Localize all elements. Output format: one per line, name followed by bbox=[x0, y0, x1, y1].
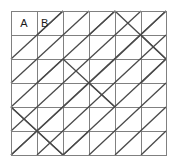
diagonal-line bbox=[63, 131, 89, 155]
cell-labels-group: AB bbox=[20, 17, 48, 29]
geometric-figure-container: AB bbox=[0, 0, 178, 166]
cell-label-b: B bbox=[41, 17, 48, 29]
grid-diagram-svg: AB bbox=[0, 0, 178, 166]
diagonal-line bbox=[141, 131, 166, 155]
diagonal-line bbox=[89, 11, 115, 35]
diagonal-line bbox=[37, 59, 63, 83]
diagonal-line bbox=[141, 59, 166, 83]
cell-label-a: A bbox=[20, 17, 28, 29]
